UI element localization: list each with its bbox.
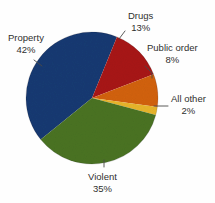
pie-label-violent-value: 35% [88, 183, 117, 195]
pie-label-all-other: All other 2% [171, 93, 206, 116]
pie-label-violent: Violent 35% [88, 171, 117, 194]
pie-label-drugs: Drugs 13% [128, 10, 153, 33]
pie-label-drugs-name: Drugs [128, 10, 153, 22]
pie-label-property-value: 42% [8, 44, 44, 56]
pie-chart-figure: Property 42% Drugs 13% Public order 8% A… [0, 0, 215, 203]
pie-label-violent-name: Violent [88, 171, 117, 183]
pie-label-public-order-value: 8% [147, 54, 198, 66]
pie-label-public-order: Public order 8% [147, 42, 198, 65]
pie-label-property-name: Property [8, 32, 44, 44]
leader-line-drugs [119, 31, 125, 39]
pie-label-public-order-name: Public order [147, 42, 198, 54]
pie-label-drugs-value: 13% [128, 22, 153, 34]
pie-label-property: Property 42% [8, 32, 44, 55]
pie-label-all-other-name: All other [171, 93, 206, 105]
pie-label-all-other-value: 2% [171, 105, 206, 117]
pie-slices [26, 32, 158, 164]
